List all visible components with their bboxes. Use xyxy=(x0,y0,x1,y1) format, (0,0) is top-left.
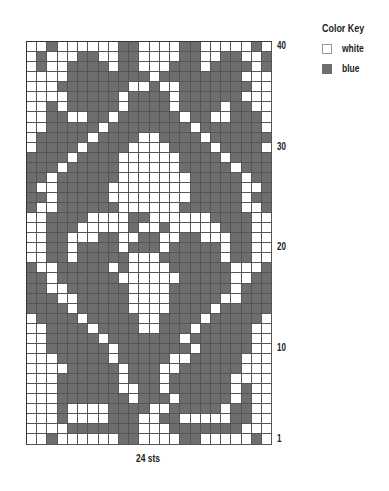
chart-cell xyxy=(47,344,57,354)
chart-cell xyxy=(252,414,262,424)
chart-cell xyxy=(139,102,149,112)
chart-cell xyxy=(170,102,180,112)
chart-cell xyxy=(47,354,57,364)
chart-cell xyxy=(68,273,78,283)
chart-cell xyxy=(109,92,119,102)
chart-cell xyxy=(47,92,57,102)
chart-cell xyxy=(78,62,88,72)
chart-cell xyxy=(109,334,119,344)
chart-cell xyxy=(191,213,201,223)
chart-cell xyxy=(150,273,160,283)
chart-cell xyxy=(150,253,160,263)
chart-cell xyxy=(262,263,272,273)
chart-cell xyxy=(262,243,272,253)
chart-cell xyxy=(201,424,211,434)
chart-cell xyxy=(231,294,241,304)
chart-cell xyxy=(129,273,139,283)
chart-cell xyxy=(109,243,119,253)
chart-cell xyxy=(191,304,201,314)
chart-cell xyxy=(201,344,211,354)
chart-cell xyxy=(242,143,252,153)
chart-cell xyxy=(180,304,190,314)
chart-cell xyxy=(58,52,68,62)
chart-cell xyxy=(170,123,180,133)
chart-cell xyxy=(78,324,88,334)
chart-cell xyxy=(150,324,160,334)
chart-cell xyxy=(129,253,139,263)
chart-cell xyxy=(27,304,37,314)
chart-cell xyxy=(170,42,180,52)
chart-cell xyxy=(160,324,170,334)
chart-cell xyxy=(58,42,68,52)
chart-cell xyxy=(252,314,262,324)
chart-cell xyxy=(99,92,109,102)
chart-cell xyxy=(252,304,262,314)
chart-cell xyxy=(27,123,37,133)
chart-cell xyxy=(47,253,57,263)
chart-cell xyxy=(88,304,98,314)
chart-cell xyxy=(262,284,272,294)
chart-cell xyxy=(252,213,262,223)
chart-cell xyxy=(99,374,109,384)
chart-cell xyxy=(262,153,272,163)
chart-cell xyxy=(170,52,180,62)
chart-cell xyxy=(231,404,241,414)
chart-cell xyxy=(160,72,170,82)
chart-cell xyxy=(180,173,190,183)
chart-cell xyxy=(252,394,262,404)
chart-cell xyxy=(58,213,68,223)
chart-cell xyxy=(160,384,170,394)
chart-cell xyxy=(37,434,47,444)
chart-cell xyxy=(129,223,139,233)
chart-cell xyxy=(160,123,170,133)
chart-cell xyxy=(139,243,149,253)
chart-cell xyxy=(160,243,170,253)
chart-cell xyxy=(37,183,47,193)
chart-cell xyxy=(150,284,160,294)
chart-cell xyxy=(129,404,139,414)
chart-cell xyxy=(119,294,129,304)
chart-cell xyxy=(129,92,139,102)
chart-cell xyxy=(109,183,119,193)
chart-cell xyxy=(201,233,211,243)
chart-cell xyxy=(231,434,241,444)
chart-cell xyxy=(262,143,272,153)
chart-cell xyxy=(221,82,231,92)
chart-cell xyxy=(242,354,252,364)
chart-cell xyxy=(191,173,201,183)
chart-cell xyxy=(170,284,180,294)
chart-cell xyxy=(150,424,160,434)
chart-cell xyxy=(170,62,180,72)
chart-cell xyxy=(201,102,211,112)
chart-cell xyxy=(109,72,119,82)
chart-cell xyxy=(68,112,78,122)
chart-cell xyxy=(37,143,47,153)
chart-cell xyxy=(211,334,221,344)
chart-cell xyxy=(27,263,37,273)
chart-cell xyxy=(211,183,221,193)
chart-cell xyxy=(109,253,119,263)
chart-cell xyxy=(37,193,47,203)
chart-cell xyxy=(201,112,211,122)
chart-cell xyxy=(139,263,149,273)
chart-cell xyxy=(68,213,78,223)
chart-cell xyxy=(47,294,57,304)
chart-cell xyxy=(68,52,78,62)
chart-cell xyxy=(221,284,231,294)
chart-cell xyxy=(58,253,68,263)
chart-cell xyxy=(170,384,180,394)
chart-cell xyxy=(68,82,78,92)
chart-cell xyxy=(150,203,160,213)
chart-cell xyxy=(191,163,201,173)
chart-cell xyxy=(231,112,241,122)
chart-cell xyxy=(68,314,78,324)
chart-cell xyxy=(262,82,272,92)
chart-cell xyxy=(27,203,37,213)
chart-cell xyxy=(231,253,241,263)
chart-cell xyxy=(201,394,211,404)
chart-cell xyxy=(119,304,129,314)
chart-cell xyxy=(109,52,119,62)
chart-cell xyxy=(47,153,57,163)
chart-cell xyxy=(252,374,262,384)
chart-cell xyxy=(37,52,47,62)
